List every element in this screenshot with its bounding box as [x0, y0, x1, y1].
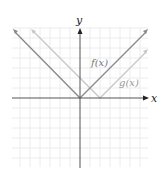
f-right-arrowhead-icon	[143, 29, 148, 34]
graph: x y f(x) g(x)	[0, 0, 163, 173]
y-axis-label: y	[75, 14, 83, 27]
y-axis-arrow-icon	[78, 28, 83, 34]
f-left-arrowhead-icon	[13, 29, 18, 34]
x-axis-arrow-icon	[143, 96, 149, 101]
x-axis-label: x	[151, 92, 158, 105]
g-right-arrowhead-icon	[143, 49, 148, 54]
f-of-x-label: f(x)	[90, 57, 108, 68]
g-of-x-label: g(x)	[119, 77, 139, 88]
